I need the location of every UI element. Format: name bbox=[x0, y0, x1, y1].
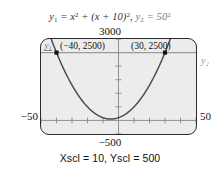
intersection-label-left: (−40, 2500) bbox=[60, 41, 105, 51]
plot-area bbox=[41, 39, 196, 134]
equation-y1: y1 = x2 + (x + 10)2 bbox=[49, 11, 130, 22]
equation-y1-term-a: = x bbox=[58, 11, 75, 22]
intersection-marker bbox=[54, 51, 58, 55]
y-max-label: 3000 bbox=[0, 25, 220, 37]
equation-y2-exponent: 2 bbox=[167, 11, 171, 19]
curve-label-y1: y₁ bbox=[44, 41, 52, 51]
intersection-marker bbox=[163, 51, 167, 55]
scale-label: Xscl = 10, Yscl = 500 bbox=[0, 152, 220, 164]
x-min-label: −50 bbox=[4, 110, 38, 122]
graphing-calculator-figure: y1 = x2 + (x + 10)2, y2 = 502 3000 −50 5… bbox=[0, 0, 220, 175]
equation-y1-term-b: + (x + 10) bbox=[79, 11, 127, 22]
equation-caption: y1 = x2 + (x + 10)2, y2 = 502 bbox=[0, 11, 220, 24]
equation-y2: y2 = 502 bbox=[136, 11, 171, 22]
x-max-label: 50 bbox=[200, 110, 220, 122]
calculator-screen bbox=[40, 38, 197, 135]
intersection-label-right: (30, 2500) bbox=[131, 41, 171, 51]
y-min-label: −500 bbox=[0, 136, 220, 148]
curve-label-y2: y₂ bbox=[201, 55, 209, 66]
equation-y2-term: = 50 bbox=[144, 11, 167, 22]
